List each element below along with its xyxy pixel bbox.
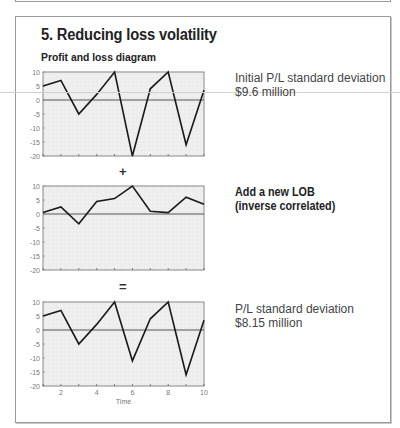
initial-sd-value: $9.6 million: [235, 85, 385, 99]
y-tick-label: -15: [30, 253, 40, 260]
result-sd-note: P/L standard deviation $8.15 million: [235, 302, 354, 330]
x-tick-label: 4: [95, 389, 99, 396]
new-lob-sub: (inverse correlated): [235, 199, 335, 213]
x-tick-label: 2: [59, 389, 63, 396]
initial-sd-note: Initial P/L standard deviation $9.6 mill…: [235, 71, 385, 99]
x-tick-label: 10: [200, 389, 208, 396]
y-tick-label: -20: [30, 267, 40, 274]
diagram-subtitle: Profit and loss diagram: [41, 51, 156, 63]
new-lob-label: Add a new LOB: [235, 185, 335, 199]
plus-operator: +: [119, 164, 127, 179]
chart-new-lob: 1050-5-10-15-20: [0, 180, 220, 280]
chart-combined-pl: 1050-5-10-15-20246810Time: [0, 296, 220, 424]
y-tick-label: -20: [30, 153, 40, 160]
y-tick-label: -15: [30, 139, 40, 146]
y-tick-label: -15: [30, 369, 40, 376]
x-tick-label: 8: [166, 389, 170, 396]
y-tick-label: -5: [34, 341, 40, 348]
y-tick-label: 0: [36, 211, 40, 218]
y-tick-label: 5: [36, 313, 40, 320]
x-axis-label: Time: [116, 398, 131, 405]
equals-operator: =: [119, 279, 127, 294]
y-tick-label: -10: [30, 239, 40, 246]
result-sd-value: $8.15 million: [235, 316, 354, 330]
y-tick-label: -5: [34, 225, 40, 232]
y-tick-label: 5: [36, 197, 40, 204]
y-tick-label: 10: [32, 183, 40, 190]
initial-sd-label: Initial P/L standard deviation: [235, 71, 385, 85]
y-tick-label: 0: [36, 327, 40, 334]
y-tick-label: -20: [30, 383, 40, 390]
y-tick-label: 10: [32, 299, 40, 306]
figure-title: 5. Reducing loss volatility: [41, 26, 217, 44]
chart-initial-pl: 1050-5-10-15-20: [0, 66, 220, 166]
y-tick-label: -10: [30, 355, 40, 362]
result-sd-label: P/L standard deviation: [235, 302, 354, 316]
new-lob-note: Add a new LOB (inverse correlated): [235, 185, 335, 213]
y-tick-label: -10: [30, 125, 40, 132]
y-tick-label: 5: [36, 83, 40, 90]
y-tick-label: -5: [34, 111, 40, 118]
y-tick-label: 0: [36, 97, 40, 104]
y-tick-label: 10: [32, 69, 40, 76]
x-tick-label: 6: [130, 389, 134, 396]
previous-panel-border: [15, 0, 391, 2]
